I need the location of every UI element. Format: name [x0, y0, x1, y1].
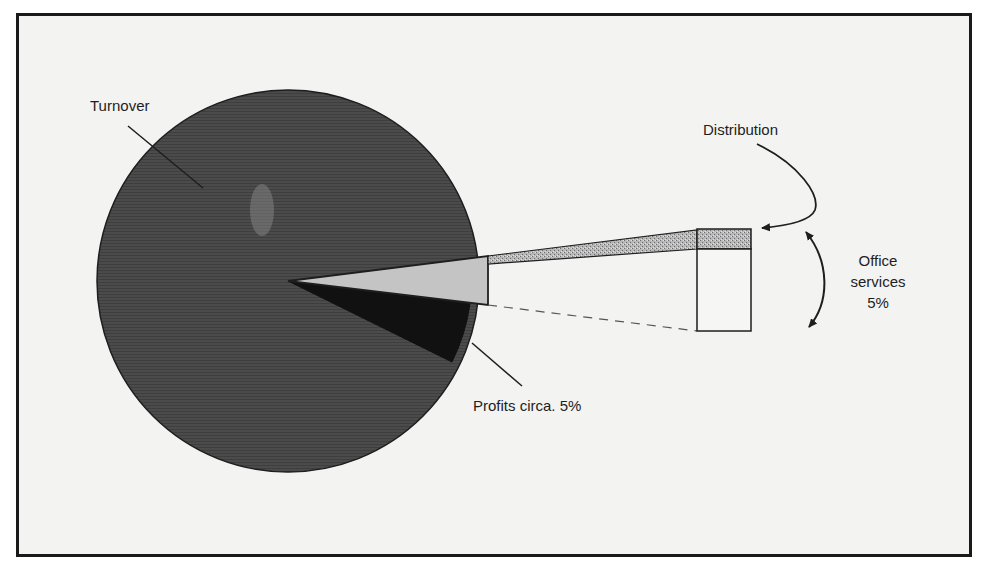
- label-services: services: [850, 273, 905, 290]
- label-turnover: Turnover: [90, 97, 149, 114]
- pie-breakout-chart: Turnover Distribution Office services 5%…: [0, 0, 993, 576]
- pie-highlight: [250, 184, 274, 236]
- label-profits: Profits circa. 5%: [473, 397, 581, 414]
- distribution-connector-band: [488, 230, 697, 264]
- label-office: Office: [859, 252, 898, 269]
- leader-line-profits: [472, 343, 522, 386]
- double-arrow-office-services: [806, 232, 824, 327]
- office-services-connector-line: [488, 305, 697, 331]
- bar-segment-office-services: [697, 249, 751, 331]
- label-distribution: Distribution: [703, 121, 778, 138]
- label-office-services-percent: 5%: [867, 294, 889, 311]
- bar-segment-distribution: [697, 229, 751, 249]
- curved-arrow-distribution: [757, 144, 816, 228]
